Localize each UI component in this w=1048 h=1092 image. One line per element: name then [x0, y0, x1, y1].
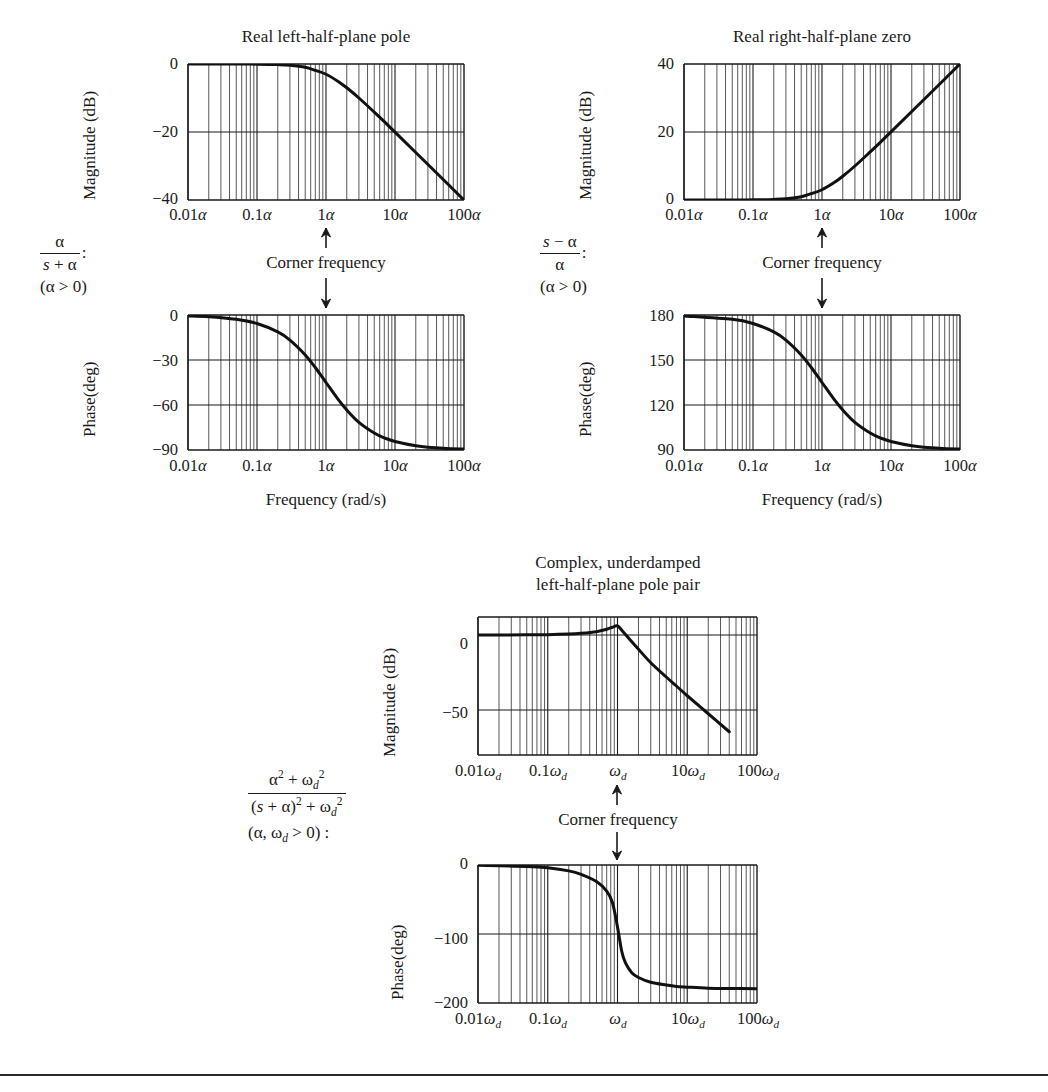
left-phase-xtick-1: 0.1α [217, 456, 297, 476]
left-phase-xtick-4: 100α [424, 456, 504, 476]
left-phase-ylabel: Phase(deg) [80, 361, 100, 437]
right-formula-numerator: s − α [540, 232, 580, 253]
left-formula-colon: : [80, 243, 87, 263]
bottom-magnitude-curve [478, 626, 729, 732]
bottom-magnitude-xtick-4: 100ωd [714, 761, 802, 782]
right-formula-fraction: s − α α [540, 232, 580, 274]
left-magnitude-xtick-0: 0.01α [148, 205, 228, 225]
right-phase-xtick-0: 0.01α [644, 456, 724, 476]
bottom-magnitude-ylabel: Magnitude (dB) [380, 648, 400, 757]
bottom-formula-condition: (α, ωd > 0) : [248, 823, 438, 846]
left-magnitude-ylabel: Magnitude (dB) [80, 91, 100, 200]
right-magnitude-ytick-0: 40 [616, 54, 674, 74]
right-panel-title: Real right-half-plane zero [684, 26, 960, 47]
bottom-magnitude-ytick-0: 0 [410, 634, 468, 654]
right-transfer-function: s − α α : (α > 0) [540, 232, 690, 297]
left-phase-ytick-1: −30 [120, 351, 178, 371]
left-magnitude-xtick-2: 1α [286, 205, 366, 225]
left-xlabel: Frequency (rad/s) [188, 490, 464, 510]
right-corner-frequency-annotation: Corner frequency [712, 253, 932, 273]
right-magnitude-xtick-2: 1α [782, 205, 862, 225]
left-formula-condition: (α > 0) [40, 277, 180, 297]
bottom-magnitude-ytick-1: −50 [410, 703, 468, 723]
left-magnitude-ytick-0: 0 [120, 54, 178, 74]
bottom-corner-frequency-annotation: Corner frequency [508, 810, 728, 830]
left-phase-ytick-0: 0 [120, 306, 178, 326]
bottom-formula-numerator: α2 + ωd2 [248, 768, 346, 793]
right-phase-ytick-1: 150 [608, 351, 674, 371]
figure-canvas [0, 0, 1048, 1092]
right-magnitude-ylabel: Magnitude (dB) [576, 91, 596, 200]
left-phase-ytick-2: −60 [120, 396, 178, 416]
left-phase-xtick-0: 0.01α [148, 456, 228, 476]
left-phase-xtick-2: 1α [286, 456, 366, 476]
bottom-panel-title-line1: Complex, underdamped [478, 552, 758, 573]
right-magnitude-xtick-3: 10α [851, 205, 931, 225]
left-magnitude-ytick-1: −20 [120, 122, 178, 142]
right-formula-denominator: α [540, 253, 580, 275]
right-formula-condition: (α > 0) [540, 277, 690, 297]
bode-plot-figure: Real left-half-plane pole Magnitude (dB)… [0, 0, 1048, 1092]
right-magnitude-xtick-0: 0.01α [644, 205, 724, 225]
left-formula-fraction: α s + α [40, 232, 80, 274]
left-formula-denominator: s + α [40, 253, 80, 275]
left-magnitude-xtick-3: 10α [355, 205, 435, 225]
bottom-transfer-function: α2 + ωd2 (s + α)2 + ωd2 (α, ωd > 0) : [248, 768, 438, 845]
left-magnitude-xtick-1: 0.1α [217, 205, 297, 225]
left-magnitude-xtick-4: 100α [424, 205, 504, 225]
bottom-panel-title-line2: left-half-plane pole pair [478, 574, 758, 595]
left-phase-xtick-3: 10α [355, 456, 435, 476]
right-phase-ytick-0: 180 [608, 306, 674, 326]
right-phase-xtick-1: 0.1α [713, 456, 793, 476]
page-divider-rule [0, 1074, 1048, 1076]
right-phase-ytick-2: 120 [608, 396, 674, 416]
left-corner-frequency-annotation: Corner frequency [216, 253, 436, 273]
bottom-phase-xtick-4: 100ωd [714, 1009, 802, 1030]
right-magnitude-xtick-4: 100α [920, 205, 1000, 225]
bottom-formula-denominator: (s + α)2 + ωd2 [248, 793, 346, 819]
right-phase-xtick-4: 100α [920, 456, 1000, 476]
right-phase-ylabel: Phase(deg) [576, 361, 596, 437]
bottom-phase-ytick-0: 0 [398, 854, 468, 874]
right-xlabel: Frequency (rad/s) [684, 490, 960, 510]
left-panel-title: Real left-half-plane pole [188, 26, 464, 47]
right-phase-xtick-3: 10α [851, 456, 931, 476]
bottom-phase-ytick-1: −100 [398, 929, 468, 949]
left-formula-numerator: α [40, 232, 80, 253]
left-transfer-function: α s + α : (α > 0) [40, 232, 180, 297]
right-magnitude-ytick-1: 20 [616, 122, 674, 142]
right-formula-colon: : [580, 243, 587, 263]
right-phase-xtick-2: 1α [782, 456, 862, 476]
bottom-formula-fraction: α2 + ωd2 (s + α)2 + ωd2 [248, 768, 346, 820]
right-magnitude-xtick-1: 0.1α [713, 205, 793, 225]
